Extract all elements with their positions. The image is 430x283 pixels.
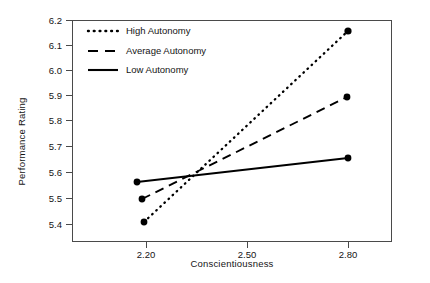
marker-low-autonomy-right [345, 155, 352, 162]
marker-high-autonomy-right [344, 27, 351, 34]
x-axis-ticks [147, 242, 349, 249]
legend-label-low-autonomy: Low Autonomy [126, 65, 188, 75]
plot-frame [73, 21, 392, 242]
interaction-plot: 6.2 6.1 6.0 5.9 5.8 5.7 5.6 5.5 5.4 2.20… [0, 0, 430, 283]
legend-label-high-autonomy: High Autonomy [126, 26, 190, 36]
x-axis-title: Conscientiousness [72, 258, 392, 270]
marker-high-autonomy-left [141, 219, 148, 226]
legend-label-average-autonomy: Average Autonomy [126, 46, 206, 56]
marker-average-autonomy-right [344, 94, 351, 101]
y-axis-title: Performance Rating [14, 0, 30, 283]
marker-average-autonomy-left [139, 196, 146, 203]
marker-low-autonomy-left [134, 179, 141, 186]
y-axis-ticks [66, 21, 73, 225]
chart-canvas [0, 0, 430, 283]
